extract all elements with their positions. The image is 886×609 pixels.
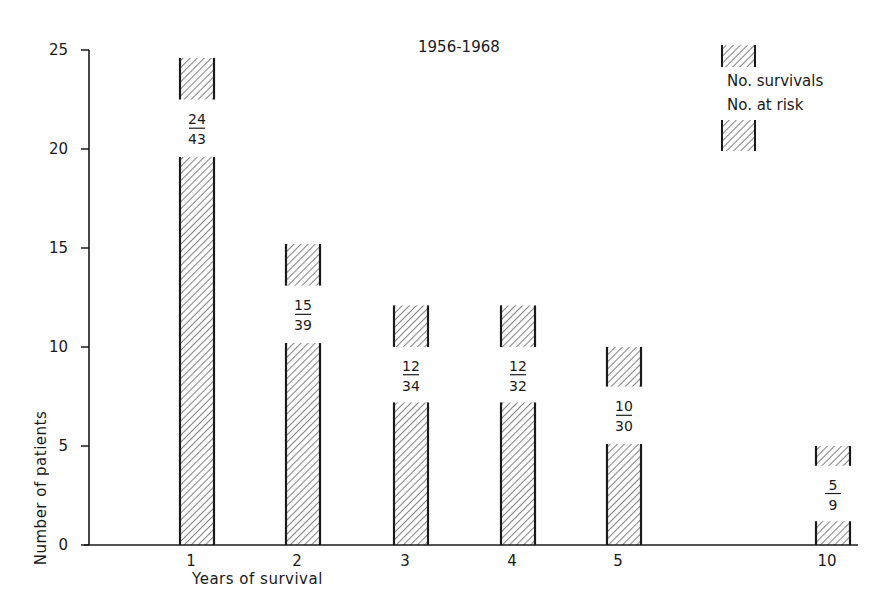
legend: No. survivals No. at risk [722,45,823,151]
bar-lower-segment [816,521,850,545]
x-tick-label: 2 [292,552,302,570]
bar-year-3: 12343 [394,305,428,570]
legend-at-risk: No. at risk [727,96,804,114]
x-axis-label: Years of survival [191,570,323,588]
at-risk-count: 34 [402,378,420,394]
y-tick-label: 20 [49,140,68,158]
y-tick-label: 5 [58,437,68,455]
bar-year-1: 24431 [180,58,214,570]
at-risk-count: 32 [509,378,527,394]
at-risk-count: 30 [615,418,633,434]
y-tick-label: 25 [49,41,68,59]
y-axis-label: Number of patients [32,411,50,565]
survival-bar-chart: 1956-1968 0510152025 Number of patients … [0,0,886,609]
bar-cap-segment [286,244,320,286]
x-tick-label: 3 [400,552,410,570]
bar-lower-segment [286,343,320,545]
legend-survivals: No. survivals [727,72,823,90]
bar-cap-segment [180,58,214,100]
at-risk-count: 43 [188,131,206,147]
legend-hatch-top [722,45,755,67]
bar-lower-segment [501,402,535,545]
bar-lower-segment [607,444,641,545]
survivals-count: 12 [402,358,420,374]
bar-lower-segment [394,402,428,545]
bar-cap-segment [607,347,641,387]
bar-lower-segment [180,157,214,545]
bar-year-5: 10305 [607,347,641,570]
survivals-count: 24 [188,111,206,127]
at-risk-count: 39 [294,317,312,333]
survivals-count: 15 [294,297,312,313]
y-axis: 0510152025 Number of patients [32,41,89,565]
bar-year-10: 5910 [816,446,850,570]
chart-title: 1956-1968 [418,38,500,56]
at-risk-count: 9 [829,497,838,513]
survivals-count: 10 [615,398,633,414]
bar-year-4: 12324 [501,305,535,570]
bar-cap-segment [501,305,535,347]
x-axis: Years of survival [84,545,858,588]
x-tick-label: 1 [186,552,196,570]
x-tick-label: 10 [817,552,836,570]
legend-hatch-bottom [722,120,755,151]
survivals-count: 12 [509,358,527,374]
bar-cap-segment [816,446,850,466]
survivals-count: 5 [829,477,838,493]
x-tick-label: 4 [507,552,517,570]
bar-cap-segment [394,305,428,347]
bar-year-2: 15392 [286,244,320,570]
y-tick-label: 15 [49,239,68,257]
y-tick-label: 10 [49,338,68,356]
y-tick-label: 0 [58,536,68,554]
x-tick-label: 5 [613,552,623,570]
